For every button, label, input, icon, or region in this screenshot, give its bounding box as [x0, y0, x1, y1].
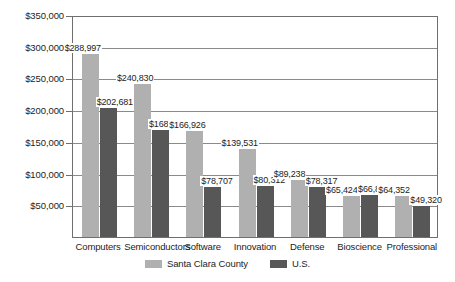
y-axis-label: $150,000 — [0, 138, 64, 148]
bar-us[interactable] — [413, 206, 430, 237]
bar-value-label: $49,320 — [409, 195, 442, 205]
bar-value-label: $78,707 — [200, 176, 233, 186]
bar-us[interactable] — [204, 187, 221, 237]
x-axis-label-innovation: Innovation — [229, 241, 281, 252]
plot-area: $288,997$202,681$240,830$168,503$166,926… — [72, 16, 438, 238]
legend-item[interactable]: U.S. — [270, 259, 310, 269]
chart-legend: Santa Clara CountyU.S. — [0, 259, 455, 269]
legend-item[interactable]: Santa Clara County — [145, 259, 248, 269]
legend-label: Santa Clara County — [167, 259, 248, 269]
bar-group: $65,424$66,831 — [343, 16, 378, 237]
x-axis-label-professional: Professional — [386, 241, 438, 252]
bar-value-label: $65,424 — [325, 185, 358, 195]
bar-group: $139,531$80,312 — [239, 16, 274, 237]
bar-county[interactable] — [239, 149, 256, 238]
legend-label: U.S. — [292, 259, 310, 269]
bar-value-label: $64,352 — [377, 185, 410, 195]
bar-us[interactable] — [152, 130, 169, 237]
y-axis-label: $100,000 — [0, 170, 64, 180]
y-axis-label: $300,000 — [0, 43, 64, 53]
legend-swatch-icon — [270, 260, 287, 268]
bar-chart: $350,000$300,000$250,000$200,000$150,000… — [0, 0, 455, 282]
bar-value-label: $139,531 — [221, 138, 259, 148]
bar-group: $240,830$168,503 — [134, 16, 169, 237]
y-axis-label: $200,000 — [0, 106, 64, 116]
bar-value-label: $288,997 — [64, 43, 102, 53]
bar-value-label: $240,830 — [116, 73, 154, 83]
bar-county[interactable] — [291, 180, 308, 237]
bar-group: $288,997$202,681 — [82, 16, 117, 237]
bar-us[interactable] — [361, 195, 378, 237]
x-axis-label-computers: Computers — [72, 241, 124, 252]
x-axis-label-bioscience: Bioscience — [333, 241, 385, 252]
bar-value-label: $89,238 — [273, 169, 306, 179]
x-axis-label-defense: Defense — [281, 241, 333, 252]
bar-us[interactable] — [100, 108, 117, 237]
bar-us[interactable] — [257, 186, 274, 237]
x-axis-label-semiconductors: Semiconductors — [124, 241, 176, 252]
bar-group: $89,238$78,317 — [291, 16, 326, 237]
bar-group: $166,926$78,707 — [186, 16, 221, 237]
y-axis-label: $50,000 — [0, 201, 64, 211]
y-axis-label: $350,000 — [0, 11, 64, 21]
x-axis-label-software: Software — [177, 241, 229, 252]
legend-swatch-icon — [145, 260, 162, 268]
bar-county[interactable] — [82, 54, 99, 237]
bar-us[interactable] — [309, 187, 326, 237]
bar-county[interactable] — [343, 196, 360, 237]
bar-value-label: $202,681 — [96, 97, 134, 107]
y-axis-label: $250,000 — [0, 74, 64, 84]
bar-county[interactable] — [134, 84, 151, 237]
bar-group: $64,352$49,320 — [395, 16, 430, 237]
bar-value-label: $166,926 — [168, 120, 206, 130]
